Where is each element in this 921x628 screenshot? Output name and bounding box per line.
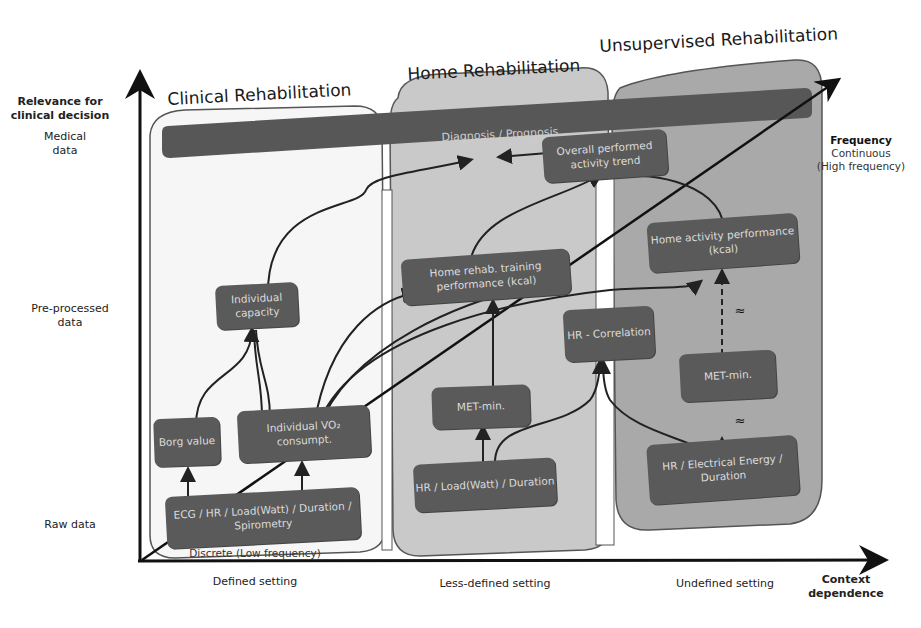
y-level-medical-data: Medical data	[30, 130, 100, 158]
node-hr-correlation: HR - Correlation	[563, 306, 656, 363]
node-individual-vo2: Individual VO₂ consumpt.	[237, 405, 372, 464]
x-level-defined: Defined setting	[190, 575, 320, 589]
x-level-less-defined: Less-defined setting	[420, 577, 570, 591]
node-hr-electrical-energy: HR / Electrical Energy / Duration	[646, 435, 800, 505]
diagram-canvas: Relevance for clinical decision Medical …	[0, 0, 921, 628]
node-ecg-hr-load-raw: ECG / HR / Load(Watt) / Duration / Spiro…	[165, 487, 361, 549]
node-met-min-unsupervised: MET-min.	[679, 350, 777, 403]
frequency-continuous: Continuous	[831, 147, 890, 159]
frequency-label-high: Frequency Continuous (High frequency)	[806, 134, 916, 173]
node-hr-load-duration: HR / Load(Watt) / Duration	[413, 457, 557, 512]
frequency-label-low: Discrete (Low frequency)	[170, 547, 340, 560]
frequency-high: (High frequency)	[817, 160, 905, 172]
node-overall-activity-trend: Overall performed activity trend	[542, 129, 669, 184]
node-borg-value: Borg value	[153, 417, 221, 467]
approx-symbol-lower: ≈	[733, 413, 747, 429]
x-level-undefined: Undefined setting	[660, 577, 790, 591]
frequency-title: Frequency	[830, 134, 891, 146]
approx-symbol-upper: ≈	[733, 303, 747, 319]
y-level-raw-data: Raw data	[30, 518, 110, 532]
diagram-graphics	[0, 0, 921, 628]
node-home-activity-performance: Home activity performance (kcal)	[646, 213, 799, 273]
node-met-min-home: MET-min.	[431, 384, 530, 429]
x-axis-title: Context dependence	[806, 573, 886, 601]
node-individual-capacity: Individual capacity	[215, 282, 299, 330]
y-axis-title: Relevance for clinical decision	[0, 95, 120, 123]
y-level-preprocessed-data: Pre-processed data	[20, 302, 120, 330]
